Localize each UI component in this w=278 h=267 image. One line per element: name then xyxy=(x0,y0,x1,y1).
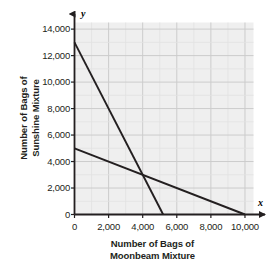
x-axis-title: Number of Bags of Moonbeam Mixture xyxy=(60,238,245,261)
plot-area: x y xyxy=(0,0,278,267)
x-axis-title-line2: Moonbeam Mixture xyxy=(60,250,245,262)
x-axis-title-line1: Number of Bags of xyxy=(60,238,245,250)
x-axis-letter: x xyxy=(257,197,263,208)
chart-container: Number of Bags of Sunshine Mixture 02,00… xyxy=(0,0,278,267)
y-axis-letter: y xyxy=(80,8,86,19)
plot-background xyxy=(75,23,254,215)
